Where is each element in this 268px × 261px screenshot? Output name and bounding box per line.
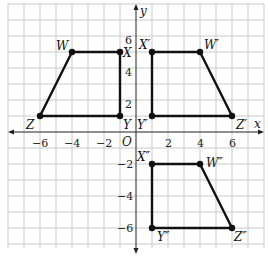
x-tick-label: −4	[64, 137, 80, 150]
y-tick-label: −6	[117, 222, 133, 235]
point-w-prime	[197, 49, 203, 55]
label-z-prime: Z′	[235, 118, 247, 132]
y-axis-up-arrow-icon	[134, 4, 139, 10]
point-y-double-prime	[149, 225, 155, 231]
label-z-double-prime: Z″	[233, 230, 247, 244]
label-y-double-prime: Y″	[157, 230, 170, 244]
y-tick-label: 4	[125, 66, 132, 79]
label-y: Y	[123, 118, 132, 132]
y-tick-label: −2	[117, 158, 133, 171]
label-x: X	[122, 46, 132, 60]
x-tick-label: 2	[165, 137, 172, 150]
coordinate-plane: x y O −6 −4 −2 2 4 6 6 4 2 −2 −4 −6 W X …	[0, 0, 268, 261]
y-tick-label: 2	[125, 98, 132, 111]
label-x-prime: X′	[138, 38, 151, 52]
x-tick-label: 6	[229, 137, 236, 150]
label-w-double-prime: W″	[206, 156, 223, 170]
point-z	[37, 113, 43, 119]
x-tick-label: −6	[32, 137, 48, 150]
label-y-prime: Y′	[137, 118, 148, 132]
x-tick-label: −2	[96, 137, 112, 150]
figure-wxyz: W X Y Z	[25, 39, 132, 132]
y-axis-label: y	[139, 4, 147, 18]
label-x-double-prime: X″	[136, 150, 151, 164]
y-tick-label: −4	[117, 190, 133, 203]
point-w	[69, 49, 75, 55]
origin-label: O	[122, 135, 132, 149]
label-w-prime: W′	[204, 38, 219, 52]
point-w-double-prime	[197, 161, 203, 167]
label-z: Z	[25, 118, 35, 132]
x-axis-label: x	[254, 117, 261, 131]
label-w: W	[56, 39, 70, 53]
y-axis-down-arrow-icon	[134, 248, 139, 254]
x-axis-left-arrow-icon	[8, 130, 14, 135]
point-z-prime	[229, 113, 235, 119]
x-tick-label: 4	[197, 137, 204, 150]
point-y-prime	[149, 113, 155, 119]
